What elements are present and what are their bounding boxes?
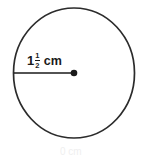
bottom-faint-text: 0 cm — [60, 147, 82, 157]
radius-unit: cm — [44, 54, 62, 68]
circle-diagram-svg — [0, 0, 151, 157]
radius-fraction: 1 2 — [35, 52, 40, 70]
fraction-numerator: 1 — [35, 52, 40, 60]
radius-whole-number: 1 — [27, 53, 34, 68]
geometry-figure: 1 1 2 cm 0 cm — [0, 0, 151, 157]
radius-measurement-label: 1 1 2 cm — [27, 52, 62, 70]
center-point-dot — [71, 70, 78, 77]
fraction-denominator: 2 — [35, 62, 40, 70]
